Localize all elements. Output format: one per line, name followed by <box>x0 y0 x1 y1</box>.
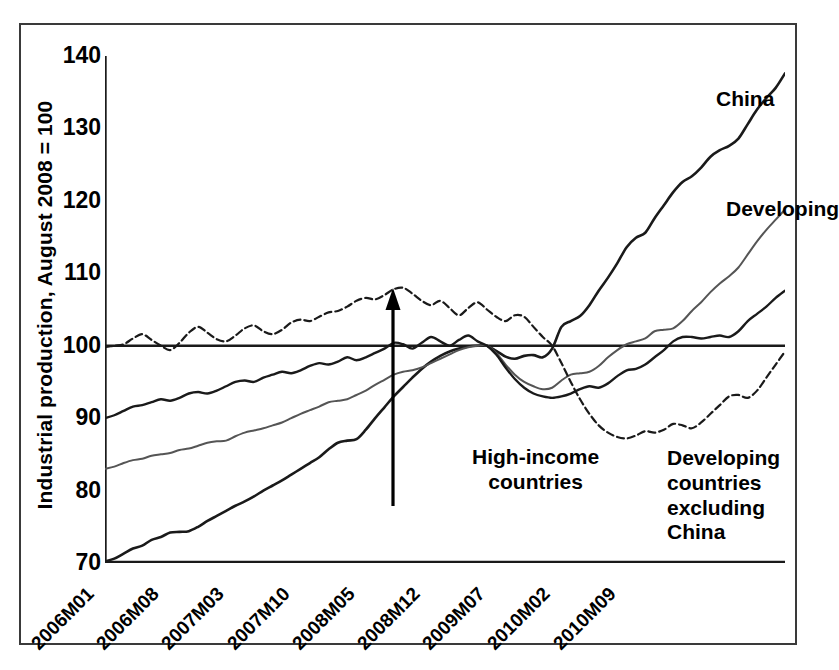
y-tick-label: 90 <box>45 406 101 429</box>
y-tick-label: 100 <box>45 334 101 357</box>
arrow-head <box>386 288 401 310</box>
annotation-china: China <box>716 87 774 112</box>
x-tick-label: 2006M08 <box>92 583 164 655</box>
x-tick-label: 2008M05 <box>288 583 360 655</box>
series-line <box>105 288 785 439</box>
x-tick-label: 2009M07 <box>418 583 490 655</box>
y-tick-label: 70 <box>45 551 101 574</box>
chart-frame: Industrial production, August 2008 = 100… <box>19 23 797 645</box>
x-tick-label: 2007M10 <box>223 583 295 655</box>
callout-arrow <box>386 288 401 506</box>
annotation-developing-excluding-china: Developing countries excluding China <box>667 446 780 545</box>
x-tick-label: 2010M09 <box>549 583 621 655</box>
annotation-high-income: High-income countries <box>472 445 599 495</box>
x-tick-label: 2010M02 <box>483 583 555 655</box>
y-axis-ticks: 708090100110120130140 <box>39 56 101 563</box>
y-tick-label: 130 <box>45 116 101 139</box>
x-axis-ticks: 2006M012006M082007M032007M102008M052008M… <box>105 565 805 670</box>
y-tick-label: 140 <box>45 44 101 67</box>
x-tick-label: 2006M01 <box>27 583 99 655</box>
x-tick-label: 2007M03 <box>157 583 229 655</box>
y-tick-label: 80 <box>45 479 101 502</box>
y-tick-label: 120 <box>45 189 101 212</box>
annotation-developing: Developing <box>726 197 839 222</box>
x-tick-label: 2008M12 <box>353 583 425 655</box>
y-tick-label: 110 <box>45 261 101 284</box>
x-tick-marks <box>105 562 757 563</box>
series-line <box>105 210 785 469</box>
